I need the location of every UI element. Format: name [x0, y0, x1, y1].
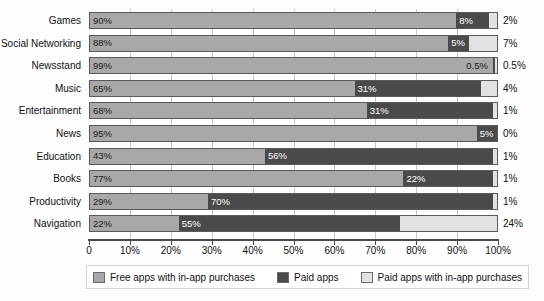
- x-axis-tick-label: 10%: [120, 245, 140, 256]
- y-axis-label: Social Networking: [0, 35, 85, 52]
- y-axis-label: Music: [0, 80, 85, 97]
- bar-segment: 99%0.5%: [90, 58, 493, 73]
- bar-row: 29%70%: [89, 193, 498, 210]
- legend-label: Paid apps with in-app purchases: [378, 272, 523, 283]
- y-axis-label: Entertainment: [0, 102, 85, 119]
- bar-segment: [481, 81, 497, 96]
- bar-segment: 56%: [265, 149, 493, 164]
- bar-segment-label: 65%: [90, 84, 115, 94]
- bar-segment: [493, 171, 497, 186]
- bar-segment: [493, 149, 497, 164]
- x-axis-tick-label: 20%: [161, 245, 181, 256]
- bar-row: 90%8%: [89, 12, 498, 29]
- bar-row: 68%31%: [89, 102, 498, 119]
- bar-segment: 5%: [448, 36, 468, 51]
- bar-segment: 68%: [90, 103, 367, 118]
- bar-segment: 8%: [456, 13, 489, 28]
- legend-label: Paid apps: [294, 272, 338, 283]
- right-value-label: 0%: [503, 125, 517, 142]
- bar-segment-label: 90%: [90, 16, 115, 26]
- plot-area: 90%8%88%5%99%0.5%65%31%68%31%95%5%43%56%…: [89, 9, 498, 239]
- bar-segment: 22%: [90, 216, 179, 231]
- y-axis-label: Productivity: [0, 193, 85, 210]
- bar-segment-label: 55%: [179, 219, 204, 229]
- y-axis-label: Navigation: [0, 215, 85, 232]
- bar-row: 43%56%: [89, 148, 498, 165]
- bar-segment: 31%: [355, 81, 481, 96]
- right-value-label: 0.5%: [503, 57, 526, 74]
- bar-segment: 65%: [90, 81, 355, 96]
- bar-row: 88%5%: [89, 35, 498, 52]
- bar-segment-label: 31%: [355, 84, 380, 94]
- bar-segment-label: 56%: [265, 151, 290, 161]
- bar-row: 22%55%: [89, 215, 498, 232]
- chart-legend: Free apps with in-app purchasesPaid apps…: [86, 265, 529, 289]
- bar-segment-label: 5%: [448, 38, 468, 48]
- x-axis-tick-label: 30%: [202, 245, 222, 256]
- x-axis-tick-label: 90%: [447, 245, 467, 256]
- right-value-label: 1%: [503, 193, 517, 210]
- x-axis-tick-label: 100%: [485, 245, 511, 256]
- right-value-column: 2%7%0.5%4%1%0%1%1%1%24%: [503, 9, 544, 239]
- bar-segment: 31%: [367, 103, 493, 118]
- bar-segment: 5%: [477, 126, 497, 141]
- bar-row: 95%5%: [89, 125, 498, 142]
- bar-segment-label: 8%: [456, 16, 476, 26]
- bar-segment-label: 22%: [403, 174, 428, 184]
- y-axis-category-labels: GamesSocial NetworkingNewsstandMusicEnte…: [0, 9, 85, 239]
- bar-segment-label: 29%: [90, 197, 115, 207]
- bar-segment: 55%: [179, 216, 401, 231]
- legend-item[interactable]: Free apps with in-app purchases: [93, 272, 255, 283]
- bar-segment: [469, 36, 497, 51]
- right-value-label: 1%: [503, 170, 517, 187]
- bar-segment-label: 68%: [90, 106, 115, 116]
- right-value-label: 7%: [503, 35, 517, 52]
- bar-segment-label: 22%: [90, 219, 115, 229]
- x-axis-tick-label: 50%: [283, 245, 303, 256]
- bar-segment: 70%: [208, 194, 493, 209]
- right-value-label: 2%: [503, 12, 517, 29]
- bar-segment-label: 43%: [90, 151, 115, 161]
- right-value-label: 1%: [503, 102, 517, 119]
- bar-segment: 77%: [90, 171, 403, 186]
- right-value-label: 24%: [503, 215, 523, 232]
- bar-segment-label: 95%: [90, 129, 115, 139]
- bar-segment-label: 0.5%: [463, 61, 491, 71]
- x-axis-tick-label: 60%: [324, 245, 344, 256]
- y-axis-label: Books: [0, 170, 85, 187]
- bar-segment: [400, 216, 497, 231]
- bar-segment: [493, 103, 497, 118]
- legend-item[interactable]: Paid apps with in-app purchases: [361, 272, 523, 283]
- right-value-label: 4%: [503, 80, 517, 97]
- bar-row: 65%31%: [89, 80, 498, 97]
- x-axis-tick-label: 0: [86, 245, 92, 256]
- bar-segment-label: 70%: [208, 197, 233, 207]
- y-axis-label: Games: [0, 12, 85, 29]
- y-axis-label: Newsstand: [0, 57, 85, 74]
- x-axis-tick-label: 70%: [365, 245, 385, 256]
- legend-swatch-icon: [361, 272, 373, 283]
- bar-segment-label: 77%: [90, 174, 115, 184]
- bar-row: 77%22%: [89, 170, 498, 187]
- bar-segment: 88%: [90, 36, 448, 51]
- bar-segment-label: 31%: [367, 106, 392, 116]
- legend-swatch-icon: [93, 272, 105, 283]
- bar-segment: [489, 13, 497, 28]
- legend-swatch-icon: [277, 272, 289, 283]
- bar-segment: 22%: [403, 171, 493, 186]
- bar-segment-label: 99%: [90, 61, 115, 71]
- bar-segment-label: 88%: [90, 38, 115, 48]
- right-value-label: 1%: [503, 148, 517, 165]
- bar-segment: 43%: [90, 149, 265, 164]
- bar-segment: 29%: [90, 194, 208, 209]
- bar-segment: 90%: [90, 13, 456, 28]
- bar-segment: [493, 194, 497, 209]
- x-axis-tick-label: 80%: [406, 245, 426, 256]
- y-axis-label: News: [0, 125, 85, 142]
- bar-segment: [495, 58, 497, 73]
- x-axis-tick-label: 40%: [243, 245, 263, 256]
- y-axis-label: Education: [0, 148, 85, 165]
- legend-label: Free apps with in-app purchases: [110, 272, 255, 283]
- bar-segment-label: 5%: [477, 129, 497, 139]
- legend-item[interactable]: Paid apps: [277, 272, 338, 283]
